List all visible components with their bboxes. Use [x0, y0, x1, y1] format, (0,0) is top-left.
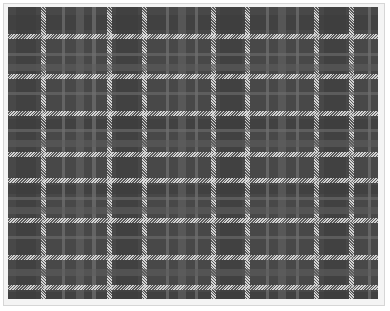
gray-horizontal-stripe [8, 197, 378, 200]
gray-horizontal-stripe [8, 140, 378, 147]
gray-horizontal-stripe [8, 269, 378, 276]
white-horizontal-stripe [8, 218, 378, 223]
white-horizontal-stripe [8, 178, 378, 183]
gray-horizontal-stripe [8, 236, 378, 239]
gray-horizontal-stripe [8, 92, 378, 95]
white-horizontal-stripe [8, 111, 378, 116]
white-horizontal-stripe [8, 285, 378, 290]
gray-horizontal-stripe [8, 53, 378, 56]
white-horizontal-stripe [8, 255, 378, 260]
gray-horizontal-stripe [8, 129, 378, 132]
white-horizontal-stripe [8, 34, 378, 39]
plaid-fabric-image [8, 7, 378, 299]
white-horizontal-stripe [8, 152, 378, 157]
gray-horizontal-stripe [8, 207, 378, 214]
white-horizontal-stripe [8, 74, 378, 79]
gray-horizontal-stripe [8, 64, 378, 71]
